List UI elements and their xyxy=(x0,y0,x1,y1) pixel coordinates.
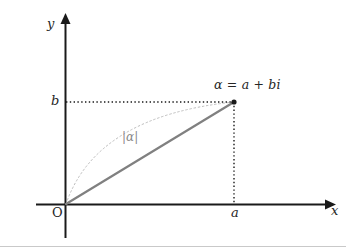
modulus-label: |α| xyxy=(122,131,138,143)
y-axis-label: y xyxy=(47,17,54,30)
imaginary-tick-label: b xyxy=(51,94,59,107)
y-axis-arrowhead-icon xyxy=(61,13,71,24)
bottom-divider xyxy=(0,246,346,247)
point-alpha-label: α = a + bi xyxy=(214,79,281,92)
real-tick-label: a xyxy=(231,206,239,219)
x-axis xyxy=(36,200,336,210)
point-alpha-marker xyxy=(231,99,236,104)
position-vector-line xyxy=(66,102,234,204)
origin-label: O xyxy=(52,206,63,219)
x-axis-label: x xyxy=(331,204,338,217)
complex-plane-figure: y x O b a α = a + bi |α| xyxy=(0,0,346,252)
